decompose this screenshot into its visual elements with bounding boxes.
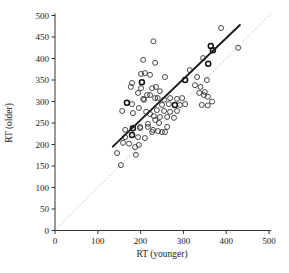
data-point	[162, 74, 167, 79]
data-point-dark	[172, 102, 177, 107]
data-point	[202, 90, 207, 95]
data-point	[205, 103, 210, 108]
data-point	[141, 57, 146, 62]
data-point	[183, 102, 188, 107]
data-point	[199, 102, 204, 107]
x-tick-label: 200	[134, 236, 148, 246]
data-point	[204, 78, 209, 83]
y-axis-title: RT (older)	[4, 103, 15, 143]
x-tick-label: 0	[53, 236, 58, 246]
data-point	[120, 108, 125, 113]
data-point	[148, 93, 153, 98]
data-point	[157, 89, 162, 94]
data-point	[177, 102, 182, 107]
data-point	[133, 152, 138, 157]
data-point	[174, 108, 179, 113]
data-point	[148, 72, 153, 77]
data-point	[165, 114, 170, 119]
data-point	[136, 105, 141, 110]
data-point	[174, 96, 179, 101]
identity-line	[55, 12, 272, 230]
x-tick-label: 400	[219, 236, 233, 246]
scatter-plot: 0501001502002503003504004505000100200300…	[0, 0, 289, 273]
data-point	[127, 141, 132, 146]
y-tick-label: 300	[36, 97, 50, 107]
y-tick-label: 200	[36, 140, 50, 150]
data-point	[162, 108, 167, 113]
data-point	[136, 90, 141, 95]
data-point	[123, 127, 128, 132]
data-point-dark	[130, 133, 135, 138]
y-tick-label: 250	[36, 118, 50, 128]
data-point	[168, 109, 173, 114]
data-point	[130, 102, 135, 107]
data-point	[145, 124, 150, 129]
x-tick-label: 300	[177, 236, 191, 246]
y-tick-label: 500	[36, 11, 50, 21]
y-tick-label: 100	[36, 183, 50, 193]
data-point	[160, 102, 165, 107]
data-point	[197, 90, 202, 95]
y-tick-label: 0	[45, 226, 50, 236]
y-tick-label: 50	[40, 204, 50, 214]
data-point	[210, 99, 215, 104]
data-point	[162, 130, 167, 135]
data-point	[136, 142, 141, 147]
scatter-figure: 0501001502002503003504004505000100200300…	[0, 0, 289, 273]
data-point	[165, 124, 170, 129]
x-tick-label: 500	[262, 236, 276, 246]
data-point-dark	[139, 80, 144, 85]
x-tick-label: 100	[91, 236, 105, 246]
data-point	[151, 39, 156, 44]
data-point	[154, 108, 159, 113]
data-point	[130, 111, 135, 116]
y-tick-label: 400	[36, 54, 50, 64]
data-point	[157, 114, 162, 119]
data-point	[136, 135, 141, 140]
data-point-dark	[124, 100, 129, 105]
data-point	[139, 86, 144, 91]
data-point	[195, 74, 200, 79]
data-point	[157, 121, 162, 126]
y-tick-label: 150	[36, 161, 50, 171]
data-point	[192, 83, 197, 88]
data-point	[118, 163, 123, 168]
data-point	[171, 115, 176, 120]
y-tick-label: 350	[36, 75, 50, 85]
y-tick-label: 450	[36, 32, 50, 42]
data-point	[198, 84, 203, 89]
data-point	[115, 151, 120, 156]
data-point	[166, 102, 171, 107]
data-point-dark	[206, 61, 211, 66]
data-point	[153, 60, 158, 65]
data-point	[219, 25, 224, 30]
x-axis-title: RT (younger)	[136, 249, 187, 260]
data-point	[121, 140, 126, 145]
data-point	[180, 96, 185, 101]
data-point	[168, 96, 173, 101]
